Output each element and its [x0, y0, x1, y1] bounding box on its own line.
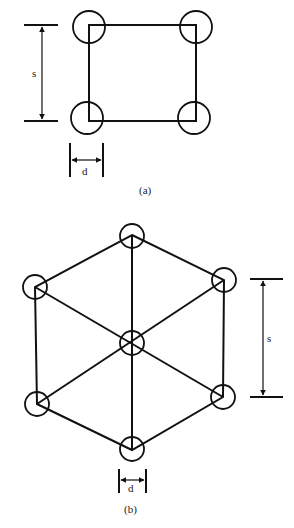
- caption-b: (b): [124, 503, 137, 516]
- s-label-b: s: [267, 332, 271, 344]
- diagonal-2: [37, 280, 224, 404]
- d-label-b: d: [128, 482, 134, 494]
- pile-arrangement-diagram: s d (a) s d (b): [0, 0, 294, 528]
- figure-a-square: s d (a): [24, 11, 212, 197]
- figure-b-hexagon: s d (b): [23, 224, 283, 516]
- circle-bottom-right: [178, 102, 210, 134]
- square-outline: [89, 25, 196, 121]
- s-label-a: s: [32, 67, 36, 79]
- circle-bottom-left: [71, 102, 103, 134]
- caption-a: (a): [139, 184, 152, 197]
- d-label-a: d: [82, 165, 88, 177]
